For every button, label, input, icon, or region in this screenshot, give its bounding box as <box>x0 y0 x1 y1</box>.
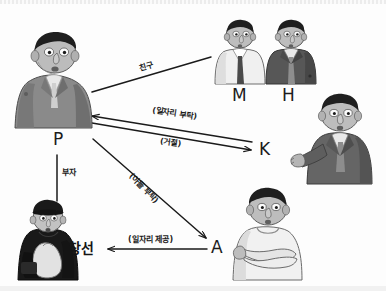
diagram-canvas: P M H K A 창선 친구 (일자리 부탁) (거절) 부자 (아들 부탁)… <box>0 0 386 291</box>
edge-label-father-son: 부자 <box>62 169 76 177</box>
figure-p <box>8 28 100 133</box>
node-label-p: P <box>53 131 64 148</box>
edge-label-son-request: (아들 부탁) <box>127 172 159 205</box>
node-label-m: M <box>232 87 247 104</box>
figure-h <box>262 18 320 86</box>
figure-a <box>226 186 310 282</box>
edge-label-refusal: (거절) <box>160 138 182 149</box>
edge-label-job-offer: (일자리 제공) <box>128 236 173 244</box>
edge-label-job-request: (일자리 부탁) <box>152 107 198 121</box>
figure-changseon <box>12 196 86 282</box>
edge-label-friend: 친구 <box>138 61 154 73</box>
node-label-changseon: 창선 <box>68 241 94 255</box>
node-label-k: K <box>259 141 271 158</box>
node-label-h: H <box>282 87 295 104</box>
figure-k <box>290 92 382 186</box>
figure-m <box>211 18 269 86</box>
node-label-a: A <box>211 239 223 256</box>
